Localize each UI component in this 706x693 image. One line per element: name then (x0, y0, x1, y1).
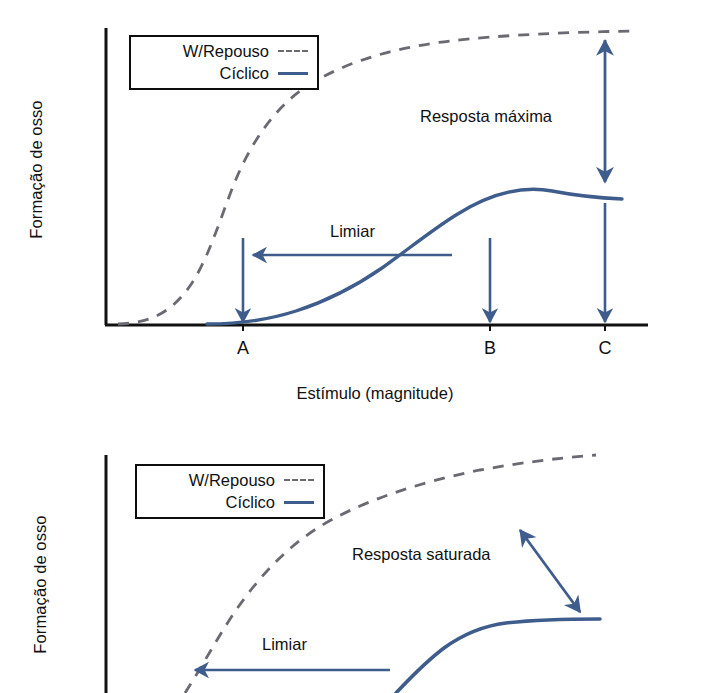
legend-swatch-dashed-icon-bottom (284, 474, 314, 486)
annotation-limiar-top: Limiar (330, 222, 375, 241)
annotation-resposta-saturada: Resposta saturada (352, 545, 491, 564)
annotation-limiar-bottom: Limiar (262, 635, 307, 654)
legend-row-w-repouso-bottom: W/Repouso (146, 469, 314, 491)
legend-row-ciclico: Cíclico (140, 62, 308, 84)
x-axis-label-top: Estímulo (magnitude) (225, 384, 525, 403)
chart-top: Formação de osso (0, 0, 706, 420)
curve-ciclico-top (207, 189, 622, 324)
legend-swatch-solid-icon-bottom (284, 496, 314, 508)
legend-label-ciclico: Cíclico (219, 64, 269, 83)
figure-page: Formação de osso (0, 0, 706, 693)
tick-label-b: B (475, 338, 505, 359)
legend-bottom: W/Repouso Cíclico (135, 464, 325, 519)
legend-label-ciclico-bottom: Cíclico (225, 493, 275, 512)
curve-ciclico-bottom (396, 619, 600, 693)
legend-row-ciclico-bottom: Cíclico (146, 491, 314, 513)
arrow-resposta-saturada (520, 530, 580, 612)
legend-label-w-repouso-bottom: W/Repouso (189, 471, 275, 490)
chart-bottom: Formação de osso (0, 420, 706, 693)
y-axis-label-bottom: Formação de osso (31, 485, 50, 685)
tick-label-a: A (228, 338, 258, 359)
tick-label-c: C (590, 338, 620, 359)
legend-row-w-repouso: W/Repouso (140, 40, 308, 62)
y-axis-label-top: Formação de osso (27, 70, 46, 270)
legend-top: W/Repouso Cíclico (129, 35, 319, 90)
legend-swatch-solid-icon (278, 67, 308, 79)
legend-label-w-repouso: W/Repouso (183, 42, 269, 61)
legend-swatch-dashed-icon (278, 45, 308, 57)
annotation-resposta-maxima: Resposta máxima (420, 107, 552, 126)
